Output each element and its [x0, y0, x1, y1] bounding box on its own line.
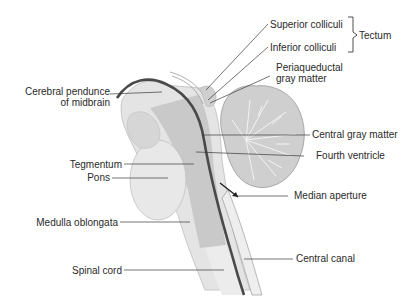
- label-line: of midbrain: [10, 97, 110, 108]
- label-central-gray-matter: Central gray matter: [312, 129, 398, 140]
- label-fourth-ventricle: Fourth ventricle: [316, 150, 385, 161]
- label-median-aperture: Median aperture: [294, 190, 367, 201]
- cerebellum: [221, 86, 305, 188]
- label-pons: Pons: [40, 172, 110, 183]
- label-tegmentum: Tegmentum: [40, 159, 122, 170]
- label-line: Cerebral pendunce: [10, 86, 110, 97]
- label-inferior-colliculi: Inferior colliculi: [270, 42, 336, 53]
- label-line: Periaqueductal: [276, 62, 343, 73]
- tectum-bracket: [348, 17, 357, 52]
- label-line: gray matter: [276, 73, 343, 84]
- label-periaqueductal-gray: Periaqueductal gray matter: [276, 62, 343, 84]
- label-superior-colliculi: Superior colliculi: [270, 19, 343, 30]
- label-spinal-cord: Spinal cord: [30, 265, 122, 276]
- pons-region: [130, 140, 186, 220]
- label-tectum: Tectum: [359, 30, 391, 41]
- label-cerebral-peduncle: Cerebral pendunce of midbrain: [10, 86, 110, 108]
- label-medulla-oblongata: Medulla oblongata: [10, 217, 118, 228]
- label-central-canal: Central canal: [296, 253, 355, 264]
